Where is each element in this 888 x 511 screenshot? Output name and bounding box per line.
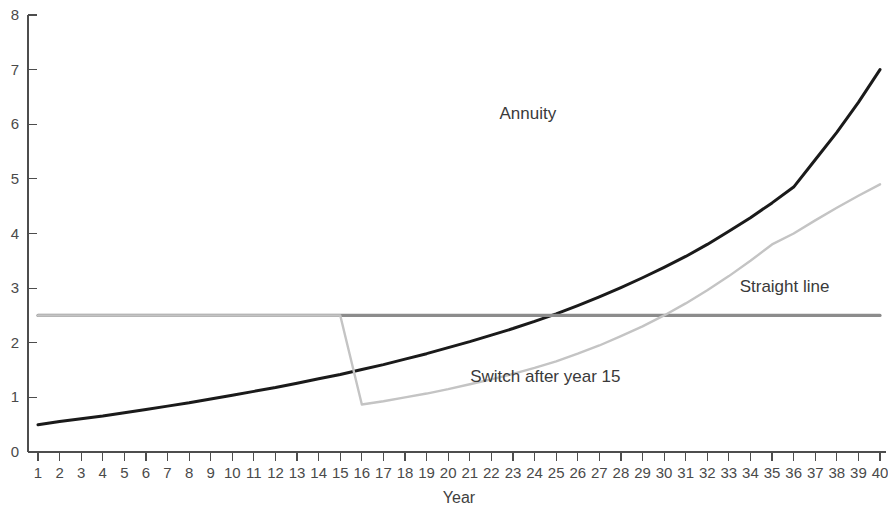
x-axis-tick-label: 34 bbox=[742, 464, 759, 481]
y-axis-tick-label: 4 bbox=[11, 225, 19, 242]
series-label-switch-after-year-15: Switch after year 15 bbox=[470, 367, 620, 386]
x-axis-tick-label: 20 bbox=[440, 464, 457, 481]
x-axis-tick-label: 7 bbox=[163, 464, 171, 481]
x-axis-tick-label: 9 bbox=[207, 464, 215, 481]
x-axis-tick-label: 4 bbox=[99, 464, 107, 481]
series-line-annuity bbox=[38, 70, 880, 425]
x-axis-tick-label: 31 bbox=[677, 464, 694, 481]
x-axis-title: Year bbox=[443, 489, 476, 506]
x-axis-tick-label: 14 bbox=[310, 464, 327, 481]
y-axis: 012345678 bbox=[11, 6, 37, 460]
y-axis-tick-label: 7 bbox=[11, 61, 19, 78]
series-label-straight-line: Straight line bbox=[740, 277, 830, 296]
x-axis-tick-label: 27 bbox=[591, 464, 608, 481]
x-axis-tick-label: 21 bbox=[461, 464, 478, 481]
series-layer bbox=[38, 70, 880, 425]
x-axis-tick-label: 25 bbox=[548, 464, 565, 481]
chart-container: 012345678 123456789101112131415161718192… bbox=[0, 0, 888, 511]
series-label-annuity: Annuity bbox=[499, 104, 556, 123]
x-axis-tick-label: 26 bbox=[569, 464, 586, 481]
y-axis-tick-label: 6 bbox=[11, 115, 19, 132]
line-chart: 012345678 123456789101112131415161718192… bbox=[0, 0, 888, 511]
x-axis-tick-label: 40 bbox=[872, 464, 888, 481]
x-axis-tick-label: 5 bbox=[120, 464, 128, 481]
x-axis-tick-label: 2 bbox=[55, 464, 63, 481]
y-axis-tick-label: 3 bbox=[11, 279, 19, 296]
y-axis-tick-label: 2 bbox=[11, 334, 19, 351]
x-axis-tick-label: 10 bbox=[224, 464, 241, 481]
x-axis: 1234567891011121314151617181920212223242… bbox=[28, 452, 888, 481]
x-axis-tick-label: 18 bbox=[397, 464, 414, 481]
x-axis-tick-label: 36 bbox=[785, 464, 802, 481]
x-axis-tick-label: 16 bbox=[354, 464, 371, 481]
x-axis-tick-label: 15 bbox=[332, 464, 349, 481]
x-axis-tick-label: 23 bbox=[505, 464, 522, 481]
x-axis-tick-label: 32 bbox=[699, 464, 716, 481]
x-axis-tick-label: 29 bbox=[634, 464, 651, 481]
x-axis-tick-label: 8 bbox=[185, 464, 193, 481]
x-axis-tick-label: 38 bbox=[828, 464, 845, 481]
x-axis-tick-label: 30 bbox=[656, 464, 673, 481]
x-axis-tick-label: 35 bbox=[764, 464, 781, 481]
x-axis-tick-label: 19 bbox=[418, 464, 435, 481]
x-axis-tick-label: 39 bbox=[850, 464, 867, 481]
x-axis-tick-label: 1 bbox=[34, 464, 42, 481]
x-axis-tick-label: 33 bbox=[721, 464, 738, 481]
x-axis-tick-label: 11 bbox=[246, 464, 262, 481]
x-axis-tick-label: 17 bbox=[375, 464, 392, 481]
x-axis-tick-label: 3 bbox=[77, 464, 85, 481]
x-axis-tick-label: 22 bbox=[483, 464, 500, 481]
x-axis-tick-label: 12 bbox=[267, 464, 284, 481]
x-axis-tick-label: 37 bbox=[807, 464, 824, 481]
y-axis-tick-label: 0 bbox=[11, 443, 19, 460]
x-axis-tick-label: 6 bbox=[142, 464, 150, 481]
series-labels: AnnuityStraight lineSwitch after year 15 bbox=[470, 104, 829, 386]
y-axis-tick-label: 1 bbox=[11, 388, 19, 405]
x-axis-tick-label: 13 bbox=[289, 464, 306, 481]
y-axis-tick-label: 8 bbox=[11, 6, 19, 23]
y-axis-tick-label: 5 bbox=[11, 170, 19, 187]
x-axis-tick-label: 24 bbox=[526, 464, 543, 481]
x-axis-tick-label: 28 bbox=[613, 464, 630, 481]
